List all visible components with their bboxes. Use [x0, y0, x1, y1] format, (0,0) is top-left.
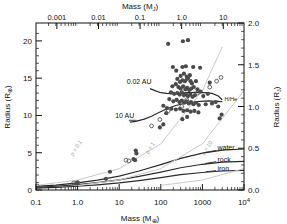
data-point-transiting [188, 110, 192, 114]
data-point-solar-system [208, 85, 212, 89]
data-point-transiting [206, 92, 210, 96]
curve-label-rock: rock [217, 156, 231, 163]
data-point-transiting [170, 84, 174, 88]
x-tick-label-bottom: 10 [115, 198, 124, 207]
data-point-transiting [192, 85, 196, 89]
x-tick-label-top: 10 [219, 13, 227, 22]
density-label-10: ρ = 10 [200, 140, 213, 156]
y-tick-label-right: 2.0 [248, 19, 260, 28]
curve-label-hhe: H/He [225, 96, 238, 102]
data-point-solar-system [23, 185, 27, 189]
model-curves-layer [36, 47, 244, 188]
data-point-transiting [161, 104, 165, 108]
data-point-transiting [108, 170, 112, 174]
y-tick-label-left: 20 [23, 37, 32, 46]
y-tick-label-left: 10 [23, 111, 32, 120]
axis-ticks-layer: 0.11.01010010001040.0010.010.11.01005101… [23, 13, 260, 207]
plot-frame [36, 23, 244, 190]
data-point-transiting [184, 64, 188, 68]
x-tick-label-top: 0.1 [135, 13, 145, 22]
data-point-transiting [197, 103, 201, 107]
curve-label-water: water [216, 144, 235, 151]
data-point-transiting [161, 122, 165, 126]
data-point-transiting [185, 115, 189, 119]
data-point-transiting [180, 117, 184, 121]
data-point-solar-system [150, 124, 154, 128]
data-point-solar-system [219, 76, 223, 80]
data-point-transiting [166, 42, 170, 46]
data-point-transiting [193, 93, 197, 97]
density-label-0p1: ρ = 0.1 [69, 139, 83, 157]
data-point-transiting [192, 109, 196, 113]
data-point-transiting [194, 79, 198, 83]
data-point-transiting [210, 101, 214, 105]
data-point-solar-system [215, 79, 219, 83]
y-tick-label-left: 15 [23, 74, 32, 83]
x-tick-label-top: 1.0 [176, 13, 186, 22]
x-tick-label-top: 0.01 [91, 13, 106, 22]
data-point-transiting [133, 158, 137, 162]
figure-mass-radius: 0.11.01010010001040.0010.010.11.01005101… [0, 0, 287, 224]
curve-label-10au: 10 AU [115, 112, 134, 119]
data-point-transiting [188, 73, 192, 77]
x-tick-label-bottom: 1000 [194, 198, 212, 207]
data-point-transiting [134, 151, 138, 155]
data-point-transiting [216, 104, 220, 108]
y-tick-label-right: 1.5 [248, 61, 260, 70]
data-point-transiting [214, 100, 218, 104]
y-tick-label-right: 1.0 [248, 103, 260, 112]
data-point-transiting [180, 65, 184, 69]
y-tick-label-right: 0.5 [248, 144, 260, 153]
data-point-transiting [181, 109, 185, 113]
y-tick-label-left: 5 [28, 149, 33, 158]
data-point-transiting [220, 113, 224, 117]
data-point-transiting [185, 77, 189, 81]
data-point-transiting [196, 110, 200, 114]
x-tick-label-bottom: 100 [154, 198, 168, 207]
data-point-transiting [190, 81, 194, 85]
data-point-transiting [174, 107, 178, 111]
data-point-solar-system [196, 91, 200, 95]
data-point-transiting [204, 102, 208, 106]
data-point-transiting [104, 177, 108, 181]
plot-svg: 0.11.01010010001040.0010.010.11.01005101… [0, 0, 287, 224]
data-point-transiting [158, 125, 162, 129]
data-point-transiting [198, 66, 202, 70]
data-point-transiting [208, 81, 212, 85]
y-tick-label-left: 0 [28, 186, 33, 195]
data-point-transiting [201, 94, 205, 98]
data-point-transiting [218, 116, 222, 120]
data-point-transiting [191, 65, 195, 69]
x-tick-label-top: 0.001 [47, 13, 66, 22]
x-tick-label-bottom: 1.0 [72, 198, 84, 207]
curve-label-iron: iron [217, 165, 229, 172]
x-tick-label-bottom: 104 [238, 197, 251, 207]
data-point-transiting [174, 69, 178, 73]
x-tick-label-bottom: 0.1 [30, 198, 42, 207]
data-point-solar-system [158, 118, 162, 122]
data-point-transiting [181, 39, 185, 43]
y-tick-label-right: 0.0 [248, 186, 260, 195]
data-point-transiting [167, 97, 171, 101]
data-point-transiting [186, 38, 190, 42]
curve-label-002au: 0.02 AU [127, 78, 152, 85]
data-point-transiting [171, 65, 175, 69]
